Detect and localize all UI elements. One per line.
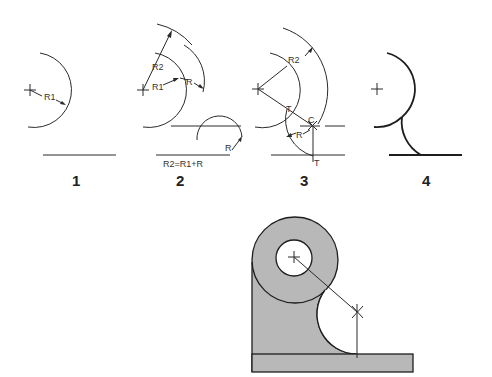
base-plate <box>252 354 413 372</box>
label-r1: R1 <box>152 82 164 92</box>
r-leader-2 <box>303 130 310 134</box>
arrowhead-icon <box>173 78 179 82</box>
step-4: 4 <box>371 53 462 189</box>
step-number-1: 1 <box>72 172 80 189</box>
step-number-2: 2 <box>176 172 184 189</box>
final-circle-arc-lower <box>374 117 402 127</box>
circle-arc-r1 <box>143 53 186 127</box>
arrowhead-icon <box>60 101 66 105</box>
arrowhead-icon <box>286 133 292 137</box>
label-r1: R1 <box>44 92 56 102</box>
step-2: R2 R1 R R R2=R1+R 2 <box>137 24 242 189</box>
label-r: R <box>296 130 303 140</box>
center-cross-icon <box>371 83 383 95</box>
r2-leader <box>258 66 287 89</box>
step-number-3: 3 <box>300 172 308 189</box>
arc-r-line <box>197 116 242 140</box>
arrowhead-icon <box>198 84 204 89</box>
label-r: R <box>186 77 193 87</box>
final-circle-arc <box>387 53 415 117</box>
arrowhead-icon <box>167 30 172 38</box>
label-r2: R2 <box>152 62 164 72</box>
step-number-4: 4 <box>422 172 431 189</box>
formula-label: R2=R1+R <box>163 159 204 169</box>
radius-leader <box>30 90 42 96</box>
tangent-construction-diagram: R1 1 R2 R1 R R R2=R1+R 2 <box>0 0 492 377</box>
arc-r2 <box>157 24 192 45</box>
result-bracket <box>252 217 413 372</box>
label-r-line: R <box>225 143 232 153</box>
final-tangent-arc <box>402 117 421 155</box>
step-3: R2 T C R T 3 <box>252 28 345 189</box>
step-1: R1 1 <box>24 53 116 189</box>
label-r2: R2 <box>288 55 300 65</box>
label-t-line: T <box>314 158 320 168</box>
